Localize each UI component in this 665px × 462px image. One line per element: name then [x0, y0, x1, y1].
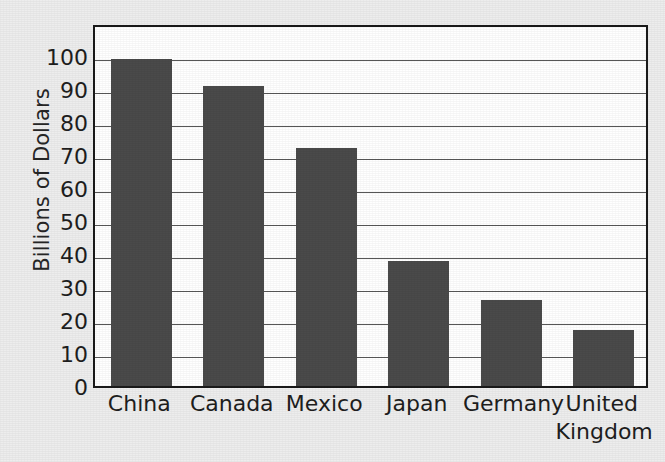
bar [388, 261, 449, 386]
bar [203, 86, 264, 386]
bar-chart-figure: Billions of Dollars 01020304050607080901… [0, 0, 665, 462]
y-tick-label: 0 [28, 377, 88, 399]
y-tick-label: 50 [28, 212, 88, 234]
y-tick-label: 20 [28, 311, 88, 333]
x-tick-label: Mexico [278, 390, 371, 418]
y-tick-label: 60 [28, 179, 88, 201]
y-tick-label: 100 [28, 47, 88, 69]
x-axis-tick-labels: ChinaCanadaMexicoJapanGermanyUnitedKingd… [93, 390, 648, 460]
y-tick-label: 10 [28, 344, 88, 366]
x-tick-label: Germany [463, 390, 556, 418]
x-tick-label: Japan [371, 390, 464, 418]
bar [481, 300, 542, 386]
x-tick-label-line: Mexico [286, 391, 363, 416]
x-tick-label: UnitedKingdom [556, 390, 649, 445]
x-tick-label: China [93, 390, 186, 418]
y-tick-label: 90 [28, 80, 88, 102]
x-tick-label-line: China [108, 391, 171, 416]
x-tick-label-line: Germany [463, 391, 564, 416]
y-tick-label: 40 [28, 245, 88, 267]
x-tick-label-line: Canada [190, 391, 274, 416]
x-tick-label-line: Japan [386, 391, 447, 416]
x-tick-label-line: Kingdom [556, 418, 649, 446]
x-tick-label-line: United [566, 391, 638, 416]
y-tick-label: 30 [28, 278, 88, 300]
plot-area [93, 25, 648, 388]
bar [296, 148, 357, 386]
bar [573, 330, 634, 386]
bar-series [95, 27, 646, 386]
y-tick-label: 80 [28, 113, 88, 135]
bar [111, 59, 172, 386]
y-axis-tick-labels: 0102030405060708090100 [28, 25, 88, 388]
x-tick-label: Canada [186, 390, 279, 418]
y-tick-label: 70 [28, 146, 88, 168]
